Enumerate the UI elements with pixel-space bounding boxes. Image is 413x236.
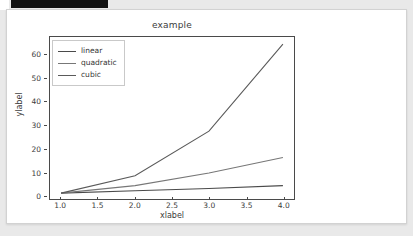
x-tick-mark <box>247 197 248 200</box>
legend-item-quadratic: quadratic <box>58 57 117 69</box>
x-tick-mark <box>172 197 173 200</box>
x-tick-label: 1.5 <box>82 201 112 210</box>
legend-swatch-linear <box>58 51 76 52</box>
legend-label: cubic <box>81 69 101 81</box>
chart-card: example ylabel 0102030405060 linearquadr… <box>6 9 407 224</box>
x-tick-label: 4.0 <box>269 201 299 210</box>
legend-item-cubic: cubic <box>58 69 117 81</box>
x-tick-mark <box>97 197 98 200</box>
legend-swatch-quadratic <box>58 63 76 64</box>
x-tick-mark <box>135 197 136 200</box>
screenshot-root: example ylabel 0102030405060 linearquadr… <box>0 0 413 236</box>
y-tick-mark <box>44 54 47 55</box>
x-tick-mark <box>60 197 61 200</box>
legend-item-linear: linear <box>58 45 117 57</box>
legend-label: quadratic <box>81 57 117 69</box>
y-tick-label: 30 <box>7 121 41 130</box>
x-tick-label: 1.0 <box>45 201 75 210</box>
legend-label: linear <box>81 45 102 57</box>
chart-title: example <box>49 20 295 30</box>
x-tick-label: 3.5 <box>232 201 262 210</box>
matplotlib-figure: example ylabel 0102030405060 linearquadr… <box>7 10 307 223</box>
x-axis-label: xlabel <box>49 211 295 220</box>
y-tick-mark <box>44 125 47 126</box>
y-tick-mark <box>44 196 47 197</box>
x-tick-label: 2.5 <box>157 201 187 210</box>
y-tick-mark <box>44 173 47 174</box>
x-tick-mark <box>209 197 210 200</box>
x-tick-label: 3.0 <box>194 201 224 210</box>
y-tick-label: 50 <box>7 74 41 83</box>
y-tick-mark <box>44 149 47 150</box>
y-tick-label: 0 <box>7 192 41 201</box>
x-tick-label: 2.0 <box>120 201 150 210</box>
redacted-title-bar <box>11 0 108 8</box>
y-tick-label: 20 <box>7 145 41 154</box>
y-tick-mark <box>44 78 47 79</box>
y-tick-mark <box>44 101 47 102</box>
series-line-quadratic <box>61 157 283 193</box>
x-tick-mark <box>284 197 285 200</box>
chart-legend[interactable]: linearquadraticcubic <box>52 40 125 86</box>
y-tick-label: 10 <box>7 169 41 178</box>
y-tick-label: 60 <box>7 50 41 59</box>
plot-area: linearquadraticcubic <box>49 36 295 200</box>
legend-swatch-cubic <box>58 75 76 76</box>
y-tick-label: 40 <box>7 97 41 106</box>
